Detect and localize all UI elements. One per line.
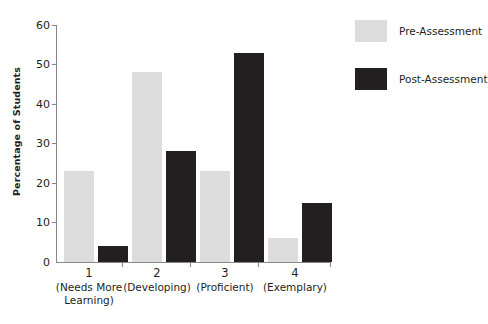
- x-category-3: 3 (Proficient): [191, 267, 259, 294]
- x-category-2-number: 2: [123, 267, 191, 281]
- x-category-4-number: 4: [259, 267, 331, 281]
- bar-4-post-assessment: [302, 203, 332, 262]
- x-category-2: 2 (Developing): [123, 267, 191, 294]
- legend-label-pre-assessment: Pre-Assessment: [399, 25, 482, 37]
- x-category-2-desc-line1: (Developing): [123, 281, 191, 295]
- y-tick-label-10: 10: [24, 217, 50, 228]
- bar-2-post-assessment: [166, 151, 196, 262]
- y-axis-title: Percentage of Students: [8, 0, 24, 262]
- y-tick-label-60: 60: [24, 20, 50, 31]
- bar-3-post-assessment: [234, 53, 264, 262]
- x-category-3-number: 3: [191, 267, 259, 281]
- legend-swatch-pre-assessment: [355, 20, 387, 42]
- y-tick-label-30: 30: [24, 138, 50, 149]
- y-tick-label-40: 40: [24, 99, 50, 110]
- legend-swatch-post-assessment: [355, 68, 387, 90]
- bar-1-post-assessment: [98, 246, 128, 262]
- x-category-4-desc-line1: (Exemplary): [259, 281, 331, 295]
- x-category-1: 1 (Needs More Learning): [55, 267, 123, 308]
- legend-label-post-assessment: Post-Assessment: [399, 73, 488, 85]
- chart-legend: Pre-Assessment Post-Assessment: [355, 16, 475, 112]
- x-axis-line: [56, 262, 331, 263]
- bar-4-pre-assessment: [268, 238, 298, 262]
- bar-3-pre-assessment: [200, 171, 230, 262]
- bar-1-pre-assessment: [64, 171, 94, 262]
- x-category-3-desc-line1: (Proficient): [191, 281, 259, 295]
- y-tick-label-0: 0: [24, 257, 50, 268]
- x-category-4: 4 (Exemplary): [259, 267, 331, 294]
- y-tick-label-50: 50: [24, 59, 50, 70]
- legend-item-pre-assessment: Pre-Assessment: [355, 16, 475, 46]
- bar-2-pre-assessment: [132, 72, 162, 262]
- x-category-1-desc-line2: Learning): [55, 294, 123, 308]
- x-category-1-number: 1: [55, 267, 123, 281]
- y-axis-title-text: Percentage of Students: [11, 67, 22, 196]
- x-category-1-desc-line1: (Needs More: [55, 281, 123, 295]
- y-tick-label-20: 20: [24, 178, 50, 189]
- legend-item-post-assessment: Post-Assessment: [355, 64, 475, 94]
- plot-area: [57, 25, 331, 262]
